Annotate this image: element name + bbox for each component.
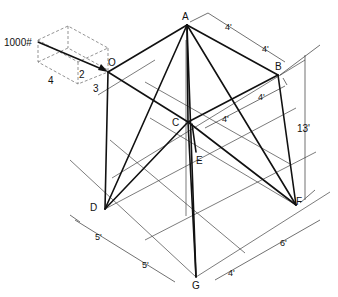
member-OD <box>105 72 108 209</box>
joint-label-G: G <box>192 280 200 291</box>
load-y-label: 2 <box>79 69 85 80</box>
member-BF <box>278 75 296 205</box>
load-label: 1000# <box>4 37 32 48</box>
joint-label-E: E <box>196 155 203 166</box>
dim-bottom-gf-2: 6' <box>280 238 287 248</box>
joint-label-O: O <box>108 57 116 68</box>
dim-height: 13' <box>297 123 310 134</box>
member-OC <box>108 72 188 122</box>
load-z-label: 3 <box>93 83 99 94</box>
dim-bottom-dg-1: 5' <box>95 232 102 242</box>
dim-bottom-gf-1: 4' <box>228 268 235 278</box>
space-truss-diagram: 1000# 4 2 3 A B C O E D F G 4' 4' 4' 4' … <box>0 0 338 297</box>
dim-bottom-dg-2: 5' <box>142 260 149 270</box>
member-CF <box>188 122 296 205</box>
load-x-label: 4 <box>48 75 54 86</box>
joint-label-F: F <box>296 196 302 207</box>
joint-label-A: A <box>182 11 189 22</box>
dim-bc-1: 4' <box>258 92 265 102</box>
joint-label-D: D <box>90 202 97 213</box>
dim-ab-1: 4' <box>225 22 232 32</box>
joint-label-C: C <box>172 117 179 128</box>
member-CD <box>105 122 188 209</box>
dim-bc-2: 4' <box>222 114 229 124</box>
joint-label-B: B <box>275 61 282 72</box>
dim-ab-2: 4' <box>262 44 269 54</box>
